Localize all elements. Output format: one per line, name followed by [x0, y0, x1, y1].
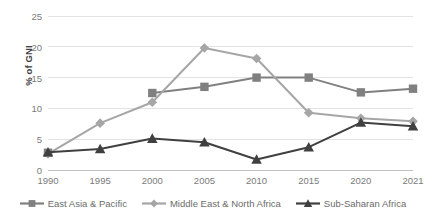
y-tick-label: 10 [14, 103, 42, 114]
legend-item[interactable]: Middle East & North Africa [141, 198, 281, 209]
x-tick-label: 2005 [194, 175, 215, 186]
data-point-marker [148, 89, 156, 97]
data-point-marker [28, 200, 35, 207]
y-axis-tick-labels: 0510152025 [14, 16, 42, 170]
series-line [48, 123, 413, 160]
legend-item[interactable]: East Asia & Pacific [19, 198, 127, 209]
x-tick-label: 2020 [350, 175, 371, 186]
plot-area [48, 16, 413, 170]
y-tick-label: 20 [14, 41, 42, 52]
data-point-marker [95, 118, 105, 128]
data-point-marker [357, 88, 365, 96]
y-tick-label: 15 [14, 72, 42, 83]
line-chart: % of GNI 0510152025 19901995200020052010… [0, 0, 425, 222]
series-line [48, 48, 413, 154]
x-tick-label: 2021 [402, 175, 423, 186]
x-tick-label: 1990 [37, 175, 58, 186]
series-layer [48, 16, 413, 170]
y-tick-label: 5 [14, 134, 42, 145]
y-tick-label: 25 [14, 11, 42, 22]
x-tick-label: 2000 [142, 175, 163, 186]
data-point-marker [150, 200, 158, 208]
x-tick-label: 1995 [90, 175, 111, 186]
legend-label: Sub-Saharan Africa [324, 198, 406, 209]
series-middle-east-north-africa [43, 43, 418, 159]
data-point-marker [200, 83, 208, 91]
chart-legend: East Asia & PacificMiddle East & North A… [0, 198, 425, 209]
legend-marker-icon [295, 198, 321, 209]
legend-label: Middle East & North Africa [170, 198, 281, 209]
data-point-marker [409, 84, 417, 92]
legend-marker-icon [19, 198, 45, 209]
x-tick-label: 2010 [246, 175, 267, 186]
x-tick-label: 2015 [298, 175, 319, 186]
legend-item[interactable]: Sub-Saharan Africa [295, 198, 406, 209]
y-tick-label: 0 [14, 165, 42, 176]
data-point-marker [303, 142, 314, 152]
legend-marker-icon [141, 198, 167, 209]
legend-label: East Asia & Pacific [48, 198, 127, 209]
data-point-marker [252, 73, 260, 81]
data-point-marker [305, 73, 313, 81]
x-axis-tick-labels: 19901995200020052010201520202021 [48, 175, 413, 191]
